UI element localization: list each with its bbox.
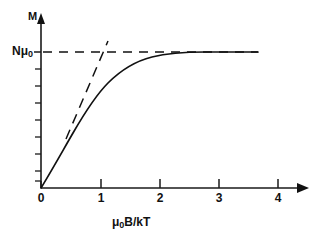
x-axis-label: μ0B/kT	[112, 216, 150, 230]
x-axis-tick-label-2: 2	[152, 192, 168, 204]
x-axis-ticks	[41, 179, 278, 188]
y-axis-ticks	[34, 52, 41, 181]
magnetization-figure: M Nμ0 0 1 2 3 4 μ0B/kT	[0, 0, 314, 242]
x-axis-tick-label-1: 1	[93, 192, 109, 204]
x-axis-tick-label-3: 3	[211, 192, 227, 204]
x-axis-tick-label-0: 0	[33, 192, 49, 204]
y-axis-tick-label-saturation: Nμ0	[12, 45, 33, 59]
x-axis-arrow-icon	[297, 183, 309, 193]
x-axis-label-rest: B/kT	[124, 215, 150, 229]
x-axis-tick-label-4: 4	[270, 192, 286, 204]
y-axis-label: M	[28, 11, 37, 22]
y-axis-arrow-icon	[37, 13, 45, 24]
saturation-label-subscript: 0	[28, 49, 33, 59]
plot-canvas	[0, 0, 314, 242]
saturation-label-main: Nμ	[12, 44, 28, 58]
